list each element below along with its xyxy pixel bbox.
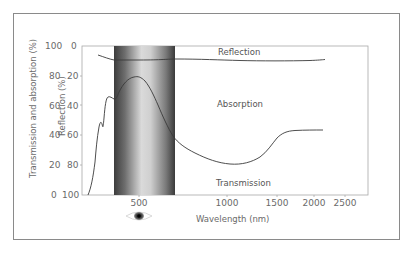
visible-light-band bbox=[114, 46, 175, 195]
region-label-transmission: Transmission bbox=[215, 178, 271, 188]
x-axis-title: Wavelength (nm) bbox=[196, 214, 269, 224]
y-tick-outer-20: 20 bbox=[49, 160, 61, 170]
y-axis-title-inner: Reflection (%) bbox=[57, 76, 67, 136]
x-tick-2000: 2000 bbox=[303, 198, 326, 208]
x-tick-500: 500 bbox=[130, 198, 147, 208]
eye-icon bbox=[126, 212, 152, 220]
y-tick-inner-20: 20 bbox=[67, 71, 79, 81]
y-axis-title-outer: Transmission and absorption (%) bbox=[28, 39, 38, 179]
y-tick-inner-80: 80 bbox=[67, 160, 79, 170]
y-tick-inner-60: 60 bbox=[67, 130, 79, 140]
region-label-reflection: Reflection bbox=[218, 47, 260, 57]
y-tick-outer-0: 0 bbox=[51, 190, 57, 200]
x-tick-1500: 1500 bbox=[266, 198, 289, 208]
y-tick-inner-40: 40 bbox=[67, 101, 79, 111]
region-label-absorption: Absorption bbox=[217, 99, 263, 109]
chart-svg: 100 80 60 40 20 0 0 20 40 60 80 100 Tran… bbox=[0, 0, 415, 253]
y-tick-inner-100: 100 bbox=[62, 190, 79, 200]
x-tick-2500: 2500 bbox=[334, 198, 357, 208]
y-tick-inner-0: 0 bbox=[71, 41, 77, 51]
y-tick-outer-100: 100 bbox=[45, 41, 62, 51]
x-tick-1000: 1000 bbox=[216, 198, 239, 208]
